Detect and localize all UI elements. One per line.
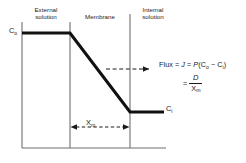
j-symbol: J	[181, 60, 185, 69]
flux-arrow	[106, 66, 149, 72]
eq-ci-subscript: i	[223, 64, 224, 70]
eq-ci-symbol: C	[217, 60, 222, 69]
region-label-membrane: Membrane	[70, 13, 130, 20]
membrane-diffusion-figure: External solution Membrane Internal solu…	[0, 0, 246, 163]
flux-equation: Flux=J=P(Co−Ci) = D Xm	[159, 60, 226, 92]
equals-sign-a: =	[175, 60, 179, 69]
concentration-profile-curve	[22, 33, 164, 112]
den-subscript: m	[196, 87, 200, 93]
fraction-numerator-d: D	[191, 74, 200, 83]
flux-word: Flux	[159, 60, 173, 69]
paren-close: )	[224, 60, 227, 69]
concentration-label-outer: Co	[9, 26, 17, 35]
eq-co-subscript: o	[206, 64, 209, 70]
region-label-internal-solution: Internal solution	[131, 6, 175, 21]
co-subscript: o	[14, 30, 17, 36]
equals-sign-c: =	[183, 79, 187, 88]
fraction-denominator-xm: Xm	[189, 84, 202, 92]
membrane-thickness-label: Xm	[86, 118, 95, 127]
ci-subscript: i	[171, 108, 172, 114]
concentration-label-inner: Ci	[166, 104, 173, 113]
membrane-thickness-arrow	[71, 124, 130, 130]
diffusion-fraction: D Xm	[189, 74, 202, 92]
xm-subscript: m	[91, 122, 95, 128]
minus-sign: −	[211, 60, 215, 69]
flux-equation-line-2: = D Xm	[183, 74, 226, 92]
region-label-external-solution: External solution	[22, 6, 70, 21]
flux-equation-line-1: Flux=J=P(Co−Ci)	[159, 60, 226, 70]
equals-sign-b: =	[187, 60, 191, 69]
